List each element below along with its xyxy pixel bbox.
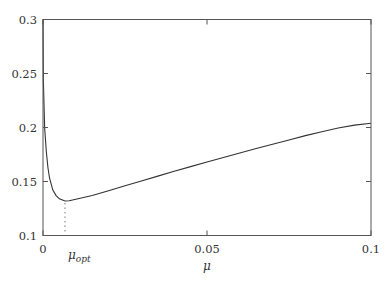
data-curve bbox=[43, 20, 371, 201]
x-axis-label: μ bbox=[203, 259, 211, 273]
x-tick-label: 0 bbox=[39, 242, 46, 256]
chart: 00.050.1 0.10.150.20.250.3 μ μopt bbox=[0, 0, 390, 281]
y-tick-label: 0.25 bbox=[11, 67, 37, 81]
y-tick-label: 0.15 bbox=[11, 175, 37, 189]
series-line bbox=[43, 20, 371, 201]
plot-frame bbox=[43, 20, 371, 236]
x-tick-label: 0.05 bbox=[194, 242, 220, 256]
x-axis-ticks: 00.050.1 bbox=[39, 20, 380, 257]
y-tick-label: 0.2 bbox=[19, 121, 37, 135]
y-tick-label: 0.1 bbox=[19, 229, 37, 243]
y-tick-label: 0.3 bbox=[19, 13, 37, 27]
mu-opt-label: μopt bbox=[68, 248, 91, 264]
x-tick-label: 0.1 bbox=[362, 242, 380, 256]
